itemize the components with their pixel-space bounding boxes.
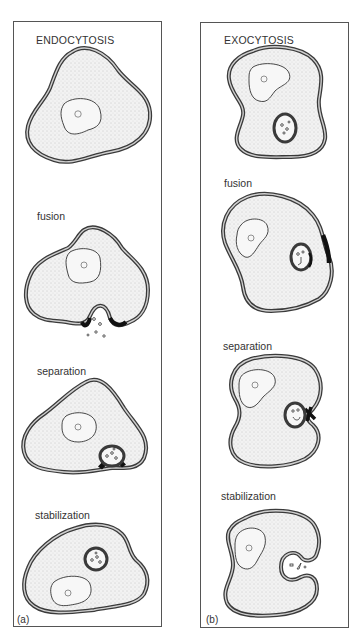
vesicle-icon [85,548,107,570]
nucleus-icon [62,413,96,442]
endocytosis-cell-resting [27,48,150,162]
exocytosis-cell-resting [229,47,325,157]
endocytosis-panel: ENDOCYTOSIS [13,21,162,627]
panel-label-a: (a) [17,614,29,625]
exocytosis-stage-fusion: fusion [224,177,252,189]
exocytosis-cell-fusion [223,194,332,311]
nucleus-icon [66,249,101,283]
panel-label-b: (b) [206,614,218,625]
vesicle-icon [274,114,296,142]
endocytosis-stage-stabilization: stabilization [35,509,90,521]
endocytosis-stage-separation: separation [37,365,86,377]
exocytosis-stage-separation: separation [223,340,272,352]
released-particles-icon [290,563,306,569]
endocytosis-cell-separation [23,380,146,473]
exocytosis-diagram [201,23,350,629]
vesicle-icon [285,403,305,427]
exocytosis-panel: EXOCYTOSIS [200,22,349,628]
vesicle-icon [100,446,124,466]
exocytosis-cell-separation [230,356,320,467]
endocytosis-diagram [14,22,163,628]
endocytosis-stage-fusion: fusion [37,210,65,222]
exocytosis-cell-stabilization [225,511,319,616]
endocytosis-cell-stabilization [24,525,147,613]
exocytosis-stage-stabilization: stabilization [221,490,276,502]
endocytosis-cell-fusion [26,227,148,337]
